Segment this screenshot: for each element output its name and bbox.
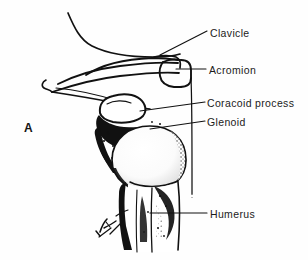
anatomy-figure: A Clavicle Acromion Coracoid process Gle…	[0, 0, 308, 260]
label-coracoid-process: Coracoid process	[207, 98, 294, 109]
anatomy-drawing	[0, 0, 308, 260]
label-humerus: Humerus	[210, 209, 255, 220]
label-glenoid: Glenoid	[207, 117, 246, 128]
label-acromion: Acromion	[209, 65, 256, 76]
humeral-shaft	[119, 182, 180, 252]
humeral-head	[112, 126, 186, 192]
coracoid-process	[100, 94, 146, 122]
label-clavicle: Clavicle	[210, 28, 250, 39]
panel-letter-a: A	[24, 122, 33, 134]
